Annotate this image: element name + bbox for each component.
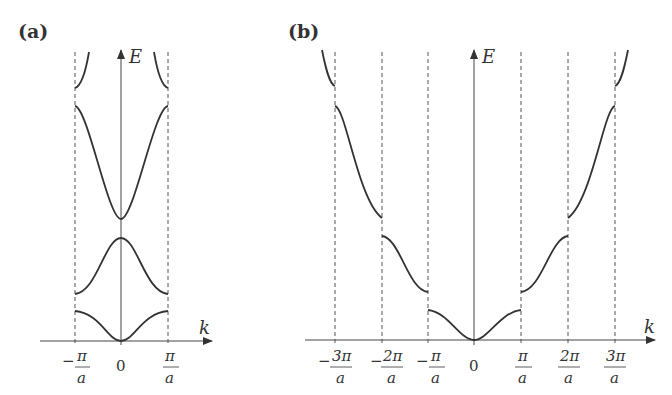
tick-labels-b: − 3π a − 2π a − π a 0 π xyxy=(318,347,627,387)
tick-labels-a: − π a 0 π a xyxy=(62,347,179,387)
svg-text:3π: 3π xyxy=(606,347,627,365)
svg-text:π: π xyxy=(517,347,529,365)
svg-text:a: a xyxy=(336,369,345,387)
svg-text:a: a xyxy=(387,369,396,387)
svg-text:π: π xyxy=(76,347,88,365)
k-axis-label: k xyxy=(199,317,210,338)
energy-bands xyxy=(322,50,628,340)
tick-neg-2pi-over-a: − 2π a xyxy=(370,347,404,387)
svg-text:a: a xyxy=(431,369,440,387)
svg-text:a: a xyxy=(564,369,573,387)
tick-pi-over-a: π a xyxy=(515,347,532,387)
svg-text:0: 0 xyxy=(469,357,479,375)
tick-zero: 0 xyxy=(469,357,479,375)
svg-text:0: 0 xyxy=(116,357,126,375)
svg-text:a: a xyxy=(77,369,86,387)
svg-text:−: − xyxy=(318,352,331,370)
svg-text:a: a xyxy=(610,369,619,387)
svg-text:a: a xyxy=(518,369,527,387)
k-axis-label: k xyxy=(644,316,655,337)
svg-text:3π: 3π xyxy=(332,347,353,365)
e-axis-label: E xyxy=(481,46,495,67)
svg-text:−: − xyxy=(370,352,383,370)
panel-b-label: (b) xyxy=(288,20,319,42)
panel-a-label: (a) xyxy=(18,20,48,42)
svg-text:2π: 2π xyxy=(382,347,404,365)
svg-text:π: π xyxy=(164,347,176,365)
tick-neg-pi-over-a: − π a xyxy=(416,347,445,387)
tick-3pi-over-a: 3π a xyxy=(604,347,627,387)
tick-zero: 0 xyxy=(116,357,126,375)
svg-text:a: a xyxy=(165,369,174,387)
zone-boundary-lines xyxy=(335,52,615,345)
tick-neg-3pi-over-a: − 3π a xyxy=(318,347,353,387)
tick-pi-over-a: π a xyxy=(163,347,179,387)
svg-text:−: − xyxy=(62,352,75,370)
panel-a: (a) E k − π a xyxy=(18,20,212,387)
svg-text:−: − xyxy=(416,352,429,370)
svg-text:π: π xyxy=(430,347,442,365)
svg-text:2π: 2π xyxy=(559,347,581,365)
panel-b: (b) E k − 3 xyxy=(288,20,655,387)
tick-neg-pi-over-a: − π a xyxy=(62,347,90,387)
e-axis-label: E xyxy=(128,46,142,67)
tick-2pi-over-a: 2π a xyxy=(558,347,581,387)
